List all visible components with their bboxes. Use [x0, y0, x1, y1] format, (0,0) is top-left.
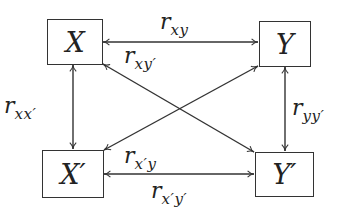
- node-y: Y: [259, 21, 311, 67]
- label-r-xx-prime: rxx′: [4, 95, 36, 117]
- correlation-diagram: X Y X′ Y′ rxy rxy′ rxx′ ryy′ rx′y rx′y′: [0, 0, 350, 212]
- node-y-prime-label: Y′: [273, 161, 297, 188]
- node-x-label: X: [65, 29, 84, 56]
- label-r-x-prime-y-prime: rx′y′: [151, 180, 187, 202]
- label-r-xy: rxy: [160, 11, 188, 33]
- node-x-prime: X′: [42, 150, 104, 198]
- label-r-x-prime-y: rx′y: [124, 145, 156, 167]
- label-r-yy-prime: ryy′: [292, 97, 324, 119]
- label-r-xy-prime: rxy′: [124, 45, 156, 67]
- node-x-prime-label: X′: [60, 161, 85, 188]
- node-y-label: Y: [276, 31, 294, 58]
- node-y-prime: Y′: [255, 152, 314, 197]
- node-x: X: [47, 19, 103, 65]
